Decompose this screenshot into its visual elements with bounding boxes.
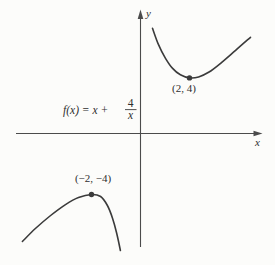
point-label-maximum: (−2, −4) (75, 172, 112, 185)
function-formula: f(x) = x + 4 x (63, 97, 137, 122)
curve-negative-branch (22, 194, 120, 250)
formula-numerator: 4 (128, 97, 134, 109)
function-graph-figure: y x (2, 4) (−2, −4) f(x) = x + 4 x (0, 0, 275, 265)
point-marker-minimum (187, 75, 192, 80)
y-axis-label: y (145, 7, 151, 19)
curve-positive-branch (153, 28, 251, 78)
x-axis-label: x (254, 136, 260, 148)
formula-denominator: x (127, 109, 134, 121)
formula-prefix: f(x) = x + (63, 104, 108, 117)
point-marker-maximum (89, 192, 94, 197)
point-label-minimum: (2, 4) (172, 82, 196, 95)
plot-svg: y x (2, 4) (−2, −4) f(x) = x + 4 x (0, 0, 275, 265)
y-axis-arrowhead-icon (138, 10, 144, 20)
